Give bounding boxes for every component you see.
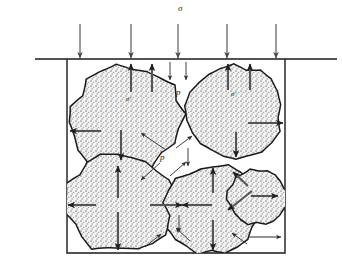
effective-stress-diagram: σ p p σ′ σ′ (0, 0, 342, 270)
diagram-canvas (0, 0, 342, 270)
leader-p-to-void-right (176, 136, 192, 148)
grain-upper-left (69, 64, 186, 168)
grain-upper-right (185, 64, 281, 160)
leader-void-lower-a (170, 162, 186, 176)
pore-pressure-label-top: p (176, 88, 181, 97)
grain-lower-left (65, 154, 178, 249)
applied-load-arrow-group (80, 24, 276, 58)
effective-stress-label-right: σ′ (231, 91, 236, 98)
effective-stress-label-left: σ′ (126, 96, 131, 103)
pore-pressure-label-middle: p (160, 153, 165, 162)
total-stress-label: σ (178, 4, 182, 13)
